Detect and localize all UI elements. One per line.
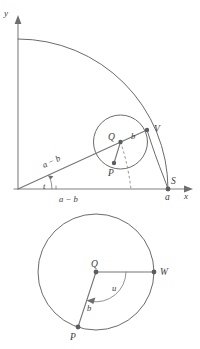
- top-panel: y x Q V P S a b a − b a − b t: [3, 8, 193, 204]
- point-W[interactable]: [152, 270, 157, 275]
- radius-b-label-top: b: [131, 131, 136, 141]
- point-P-label-bottom: P: [69, 332, 76, 342]
- point-P-label-top: P: [107, 168, 114, 178]
- point-V[interactable]: [145, 128, 149, 132]
- segment-origin-to-V: [18, 130, 147, 189]
- point-Q-label-top: Q: [108, 132, 115, 142]
- x-axis-label: x: [183, 191, 188, 201]
- radius-b-label-bottom: b: [87, 303, 92, 313]
- geometry-figure: y x Q V P S a b a − b a − b t Q W P u b: [0, 0, 200, 349]
- figure-root: y x Q V P S a b a − b a − b t Q W P u b: [0, 0, 200, 349]
- angle-u-arc: [91, 272, 127, 302]
- slant-segment-label: a − b: [41, 153, 63, 170]
- outer-circle-arc: [18, 39, 168, 189]
- point-S-label: S: [171, 176, 176, 186]
- bottom-panel: Q W P u b: [38, 214, 169, 342]
- dashed-angle-arc: [121, 142, 132, 189]
- x-tick-a-label: a: [165, 192, 170, 202]
- horizontal-segment-label: a − b: [59, 194, 78, 204]
- point-P-top[interactable]: [112, 161, 116, 165]
- point-Q-bottom[interactable]: [94, 270, 99, 275]
- angle-u-label: u: [112, 283, 116, 293]
- angle-t-arrowhead: [48, 175, 54, 179]
- point-Q-label-bottom: Q: [91, 259, 98, 269]
- point-W-label: W: [160, 267, 169, 277]
- y-axis-arrowhead: [15, 15, 22, 24]
- y-axis: [15, 15, 22, 189]
- y-axis-label: y: [3, 8, 8, 18]
- point-Q-top[interactable]: [118, 140, 122, 144]
- point-P-bottom[interactable]: [76, 325, 81, 330]
- point-V-label: V: [154, 124, 161, 134]
- point-S[interactable]: [166, 187, 171, 192]
